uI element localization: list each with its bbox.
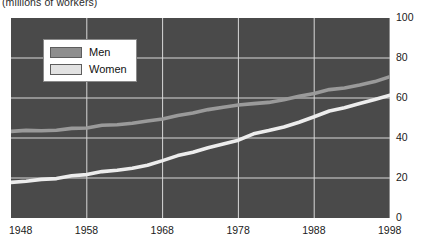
legend-swatch-women [50, 64, 82, 75]
y-tick-label: 80 [396, 52, 408, 63]
labor-force-line-chart: (millions of workers) 020406080100 19481… [0, 0, 422, 249]
chart-legend: MenWomen [43, 39, 137, 82]
x-tick-label: 1988 [302, 224, 325, 236]
y-tick-label: 100 [396, 12, 414, 23]
series-lines [11, 77, 390, 183]
legend-swatch-men [50, 47, 82, 58]
x-tick-label: 1968 [151, 224, 174, 236]
x-tick-label: 1948 [9, 224, 32, 236]
series-line-men [11, 77, 390, 132]
legend-label-men: Men [89, 46, 110, 58]
y-tick-label: 60 [396, 92, 408, 103]
legend-item-men: Men [50, 45, 127, 59]
legend-label-women: Women [89, 63, 127, 75]
y-tick-label: 0 [396, 212, 402, 223]
series-line-women [11, 95, 390, 182]
legend-item-women: Women [50, 62, 127, 76]
x-tick-label: 1978 [226, 224, 249, 236]
units-caption: (millions of workers) [2, 0, 97, 8]
x-tick-label: 1958 [75, 224, 98, 236]
x-tick-label: 1998 [378, 224, 401, 236]
y-tick-label: 20 [396, 172, 408, 183]
y-tick-label: 40 [396, 132, 408, 143]
